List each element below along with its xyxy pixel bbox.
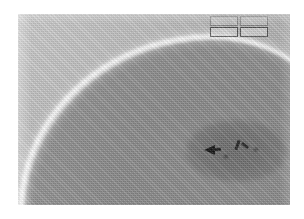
marker-small-icon bbox=[224, 155, 228, 158]
page-root bbox=[0, 0, 304, 219]
param-box-bottom-right bbox=[240, 27, 268, 37]
param-box-bottom-left bbox=[210, 27, 238, 37]
param-box-top-left bbox=[210, 16, 238, 26]
ultrasound-scan-frame bbox=[18, 14, 290, 205]
marker-dot-icon bbox=[254, 148, 258, 151]
param-box-top-right bbox=[240, 16, 268, 26]
scanner-parameter-readout bbox=[210, 16, 268, 37]
arrowhead-left-tail-icon bbox=[212, 148, 221, 152]
focal-lesion-region bbox=[186, 120, 288, 182]
